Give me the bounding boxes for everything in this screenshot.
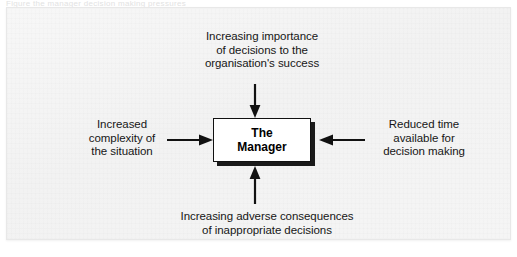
factor-label-right: Reduced time available for decision maki… [359,118,489,159]
factor-label-top: Increasing importance of decisions to th… [157,30,367,71]
manager-box: The Manager [213,118,311,162]
arrow-up-icon [247,166,263,204]
arrow-right-icon [167,132,213,148]
manager-box-label: The Manager [237,126,286,154]
cropped-caption-remnant: Figure the manager decision making press… [0,0,517,7]
arrow-down-icon [247,84,263,118]
factor-label-left: Increased complexity of the situation [62,118,182,159]
figure-root: Figure the manager decision making press… [0,0,517,257]
diagram-panel: Increasing importance of decisions to th… [6,7,511,240]
factor-label-bottom: Increasing adverse consequences of inapp… [147,210,387,237]
